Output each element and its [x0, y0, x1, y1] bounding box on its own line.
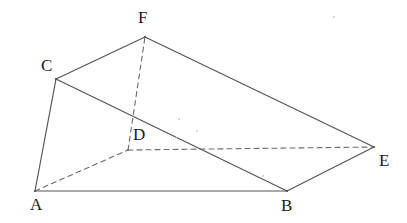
edge-layer — [35, 37, 374, 191]
geometry-figure: ABCDEF — [0, 0, 407, 223]
vertex-point-c — [55, 78, 57, 80]
vertex-point-f — [144, 36, 146, 38]
edge-CB — [56, 79, 287, 191]
edge-AD — [35, 150, 128, 191]
edge-CF — [56, 37, 145, 79]
vertex-label-a: A — [30, 196, 42, 213]
edge-FE — [145, 37, 374, 147]
vertex-point-e — [373, 146, 375, 148]
vertex-point-b — [286, 190, 288, 192]
vertex-label-d: D — [133, 126, 145, 143]
figure-canvas — [0, 0, 407, 223]
scan-speck-4 — [176, 137, 177, 138]
vertex-label-e: E — [379, 152, 389, 169]
edge-BE — [287, 147, 374, 191]
vertex-point-a — [34, 190, 36, 192]
vertex-label-f: F — [138, 9, 147, 26]
edge-AC — [35, 79, 56, 191]
vertex-label-c: C — [41, 57, 52, 74]
scan-speck-0 — [178, 118, 180, 120]
vertex-label-b: B — [281, 197, 292, 214]
vertex-point-d — [127, 149, 129, 151]
edge-DE — [128, 147, 374, 150]
scan-speck-1 — [196, 130, 198, 132]
scan-speck-2 — [262, 175, 264, 177]
scan-speck-3 — [333, 16, 335, 18]
